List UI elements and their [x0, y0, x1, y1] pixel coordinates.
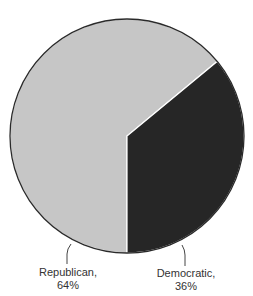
leader-line-democratic: [182, 245, 185, 266]
leader-line-republican: [67, 244, 71, 264]
label-democratic-value: 36%: [175, 280, 197, 292]
label-democratic-name: Democratic,: [157, 267, 216, 279]
label-republican-value: 64%: [57, 279, 79, 291]
data-labels: Republican, 64% Democratic, 36%: [39, 266, 215, 292]
pie-chart: Republican, 64% Democratic, 36%: [0, 0, 253, 296]
pie-slices: [10, 19, 244, 253]
label-republican-name: Republican,: [39, 266, 97, 278]
